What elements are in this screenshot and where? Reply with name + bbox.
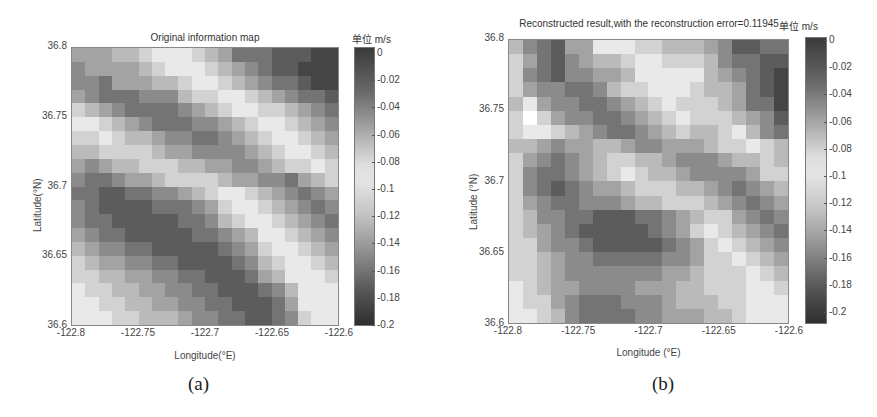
heatmap-cell bbox=[285, 90, 298, 104]
heatmap-cell bbox=[648, 153, 662, 167]
x-tick-label: -122.65 bbox=[247, 327, 297, 338]
heatmap-cell bbox=[258, 270, 271, 284]
heatmap-cell bbox=[509, 97, 523, 111]
heatmap-cell bbox=[232, 311, 245, 325]
heatmap-cell bbox=[509, 167, 523, 181]
heatmap-cell bbox=[218, 311, 231, 325]
heatmap-cell bbox=[258, 187, 271, 201]
heatmap-cell bbox=[258, 103, 271, 117]
colorbar-tick-mark bbox=[824, 94, 827, 95]
colorbar-tick-label: -0.02 bbox=[377, 74, 400, 85]
heatmap-cell bbox=[245, 90, 258, 104]
heatmap-cell bbox=[565, 181, 579, 195]
heatmap-cell bbox=[245, 283, 258, 297]
heatmap-cell bbox=[165, 131, 178, 145]
heatmap-cell bbox=[774, 196, 788, 210]
heatmap-cell bbox=[245, 159, 258, 173]
heatmap-cell bbox=[311, 62, 324, 76]
heatmap-cell bbox=[718, 125, 732, 139]
heatmap-cell bbox=[551, 40, 565, 54]
heatmap-cell bbox=[99, 228, 112, 242]
y-tick-label: 36.65 bbox=[464, 246, 504, 257]
heatmap-cell bbox=[152, 76, 165, 90]
heatmap-cell bbox=[165, 270, 178, 284]
heatmap-cell bbox=[509, 153, 523, 167]
heatmap-cell bbox=[704, 40, 718, 54]
heatmap-cell bbox=[760, 224, 774, 238]
heatmap-cell bbox=[72, 187, 85, 201]
heatmap-cell bbox=[551, 97, 565, 111]
heatmap-cell bbox=[285, 228, 298, 242]
heatmap-cell bbox=[690, 125, 704, 139]
heatmap-cell bbox=[551, 68, 565, 82]
heatmap-cell bbox=[732, 252, 746, 266]
heatmap-cell bbox=[85, 228, 98, 242]
heatmap-cell bbox=[99, 117, 112, 131]
heatmap-cell bbox=[325, 117, 338, 131]
heatmap-cell bbox=[648, 82, 662, 96]
heatmap-cell bbox=[621, 295, 635, 309]
colorbar-tick-mark bbox=[372, 107, 375, 108]
heatmap-cell bbox=[621, 54, 635, 68]
heatmap-cell bbox=[245, 48, 258, 62]
heatmap-cell bbox=[607, 167, 621, 181]
heatmap-cell bbox=[718, 266, 732, 280]
heatmap-cell bbox=[285, 173, 298, 187]
heatmap-cell bbox=[245, 173, 258, 187]
heatmap-cell bbox=[774, 224, 788, 238]
heatmap-cell bbox=[152, 117, 165, 131]
heatmap-cell bbox=[593, 82, 607, 96]
heatmap-cell bbox=[112, 256, 125, 270]
heatmap-cell bbox=[325, 159, 338, 173]
heatmap-cell bbox=[537, 111, 551, 125]
heatmap-cell bbox=[325, 256, 338, 270]
heatmap-cell bbox=[635, 97, 649, 111]
colorbar-tick-label: -0.04 bbox=[377, 101, 400, 112]
heatmap-cell bbox=[607, 54, 621, 68]
heatmap-cell bbox=[245, 311, 258, 325]
x-tick-label: -122.75 bbox=[113, 327, 163, 338]
heatmap-cell bbox=[272, 62, 285, 76]
heatmap-cell bbox=[85, 214, 98, 228]
heatmap-cell bbox=[523, 196, 537, 210]
heatmap-cell bbox=[258, 311, 271, 325]
heatmap-cell bbox=[746, 309, 760, 323]
heatmap-cell bbox=[139, 117, 152, 131]
heatmap-cell bbox=[523, 181, 537, 195]
heatmap-cell bbox=[272, 270, 285, 284]
heatmap-cell bbox=[676, 82, 690, 96]
heatmap-cell bbox=[192, 76, 205, 90]
heatmap-cell bbox=[593, 210, 607, 224]
heatmap-cell bbox=[607, 181, 621, 195]
heatmap-cell bbox=[690, 68, 704, 82]
heatmap-cell bbox=[298, 297, 311, 311]
heatmap-cell bbox=[245, 297, 258, 311]
heatmap-cell bbox=[125, 297, 138, 311]
heatmap-cell bbox=[621, 82, 635, 96]
heatmap-cell bbox=[537, 196, 551, 210]
heatmap-cell bbox=[72, 242, 85, 256]
heatmap-cell bbox=[205, 256, 218, 270]
heatmap-cell bbox=[621, 40, 635, 54]
heatmap-cell bbox=[272, 159, 285, 173]
heatmap-cell bbox=[509, 238, 523, 252]
heatmap-cell bbox=[232, 270, 245, 284]
heatmap-cell bbox=[125, 159, 138, 173]
heatmap-cell bbox=[218, 62, 231, 76]
heatmap-cell bbox=[285, 145, 298, 159]
heatmap-cell bbox=[125, 173, 138, 187]
heatmap-cell bbox=[218, 103, 231, 117]
y-tick-label: 36.8 bbox=[464, 32, 504, 43]
heatmap-cell bbox=[285, 256, 298, 270]
heatmap-cell bbox=[662, 309, 676, 323]
heatmap-cell bbox=[607, 309, 621, 323]
heatmap-cell bbox=[125, 145, 138, 159]
heatmap-cell bbox=[509, 181, 523, 195]
heatmap-cell bbox=[272, 200, 285, 214]
heatmap-cell bbox=[690, 281, 704, 295]
colorbar-tick-mark bbox=[372, 189, 375, 190]
heatmap-cell bbox=[245, 103, 258, 117]
heatmap-cell bbox=[178, 103, 191, 117]
heatmap-cell bbox=[593, 111, 607, 125]
heatmap-cell bbox=[704, 181, 718, 195]
